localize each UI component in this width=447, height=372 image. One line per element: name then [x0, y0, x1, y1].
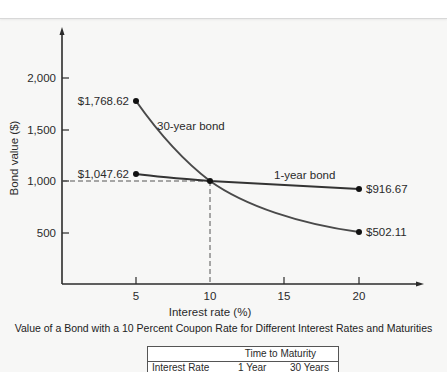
maturity-table: Time to Maturity Interest Rate 1 Year 30… [147, 346, 339, 372]
series-label-one: 1-year bond [274, 169, 335, 181]
y-tick-label: 500 [37, 227, 56, 239]
label-thirty-end: $502.11 [366, 226, 407, 238]
series-label-thirty: 30-year bond [157, 120, 225, 132]
point-thirty-20 [356, 229, 362, 235]
x-tick-label: 15 [278, 290, 291, 302]
point-one-20 [356, 186, 362, 192]
x-tick-labels: 5 10 15 20 [133, 290, 366, 302]
chart-caption: Value of a Bond with a 10 Percent Coupon… [0, 322, 447, 334]
table-cell: Interest Rate [152, 362, 238, 372]
label-thirty-start: $1,768.62 [78, 95, 129, 107]
table-cell: 1 Year [238, 362, 290, 372]
x-ticks [136, 277, 359, 284]
y-axis-title: Bond value ($) [8, 120, 20, 195]
y-ticks [62, 78, 69, 233]
y-tick-label: 2,000 [27, 72, 56, 84]
point-labels: $1,768.62 $1,047.62 $916.67 $502.11 30-y… [78, 95, 408, 238]
x-tick-label: 10 [204, 290, 217, 302]
label-one-start: $1,047.62 [78, 168, 129, 180]
table-row: Interest Rate 1 Year 30 Years [148, 362, 338, 372]
y-tick-label: 1,500 [27, 124, 56, 136]
point-intersection-10 [207, 178, 213, 184]
y-tick-label: 1,000 [27, 175, 56, 187]
point-one-5 [133, 171, 139, 177]
table-header: Time to Maturity [148, 347, 338, 362]
y-tick-labels: 2,000 1,500 1,000 500 [27, 72, 56, 239]
point-thirty-5 [133, 98, 139, 104]
data-points [133, 98, 362, 235]
x-tick-label: 20 [353, 290, 366, 302]
x-axis-title: Interest rate (%) [169, 306, 252, 318]
table-cell: 30 Years [290, 362, 329, 372]
x-axis-arrow-icon [416, 282, 424, 287]
bond-value-chart: 2,000 1,500 1,000 500 5 10 15 20 Interes… [0, 0, 447, 320]
y-axis-arrow-icon [60, 27, 65, 35]
x-tick-label: 5 [133, 290, 139, 302]
label-one-end: $916.67 [366, 183, 408, 195]
